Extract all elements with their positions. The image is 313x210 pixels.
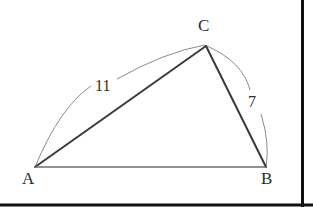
vertex-label-a: A <box>22 170 34 187</box>
triangle-side-ac <box>35 46 206 167</box>
arc-side-ac-upper <box>117 45 205 79</box>
side-measure-label-cb: 7 <box>247 94 257 110</box>
figure-canvas: A B C 11 7 <box>0 0 313 210</box>
arc-side-cb-upper <box>207 46 250 90</box>
vertex-label-c: C <box>198 17 209 34</box>
arc-side-ac-lower <box>35 86 91 167</box>
side-measure-label-ac: 11 <box>94 78 111 94</box>
vertex-label-b: B <box>261 170 272 187</box>
triangle-side-cb <box>206 46 266 167</box>
